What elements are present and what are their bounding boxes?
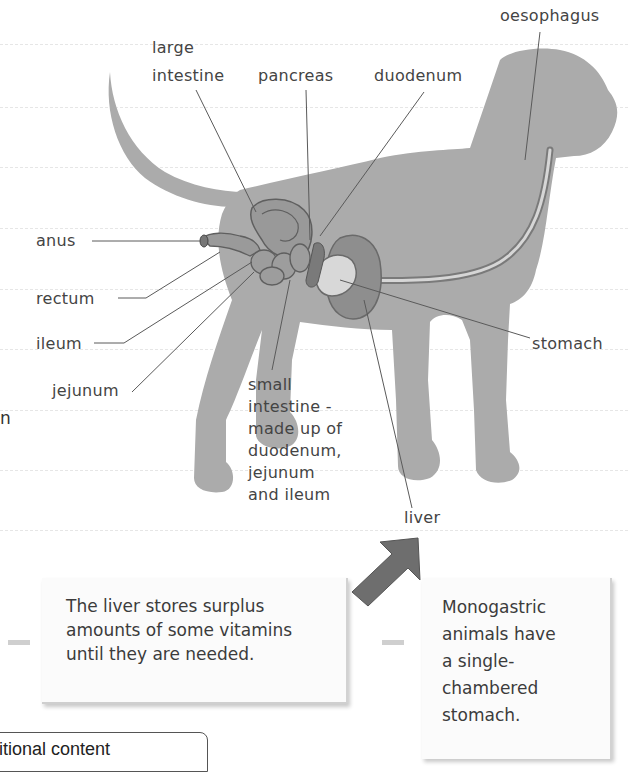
decorative-dash [8,640,30,645]
additional-content-label: itional content [0,739,110,759]
decorative-dash [382,640,404,645]
callout-monogastric-fact: Monogastric animals have a single- chamb… [422,578,612,759]
label-small-intestine: small intestine - made up of duodenum, j… [248,374,358,506]
label-pancreas: pancreas [258,66,334,85]
label-anus: anus [36,231,76,250]
label-rectum: rectum [36,289,95,308]
callout-liver-fact: The liver stores surplus amounts of some… [42,578,348,704]
arrow-icon [352,538,420,606]
label-duodenum: duodenum [374,66,462,85]
label-stomach: stomach [532,334,603,353]
label-large-intestine-line2: intestine [152,66,224,85]
anus-organ [200,235,208,247]
left-edge-text-fragment: n [0,408,11,428]
label-ileum: ileum [36,334,82,353]
label-jejunum: jejunum [52,381,119,400]
additional-content-box: itional content [0,732,208,772]
label-oesophagus: oesophagus [500,6,600,25]
label-liver: liver [404,508,440,527]
label-large-intestine-line1: large [152,38,194,57]
